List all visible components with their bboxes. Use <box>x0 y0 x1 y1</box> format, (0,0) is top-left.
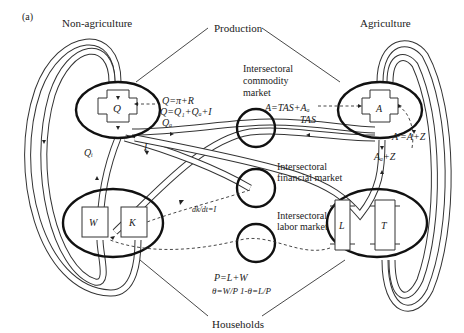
node-W: W <box>82 207 108 237</box>
node-K: K <box>121 207 147 237</box>
non-agriculture-label: Non-agriculture <box>62 17 132 29</box>
svg-text:Intersectoral: Intersectoral <box>277 161 327 172</box>
non-agriculture-household-oval <box>63 189 163 257</box>
node-T: T <box>370 200 400 250</box>
production-label: Production <box>214 22 263 34</box>
financial-market-circle <box>237 169 275 207</box>
dashed-flows <box>110 104 413 250</box>
flow-label-tas: TAS <box>300 114 316 125</box>
flow-label-i: I <box>143 141 148 152</box>
svg-text:Intersectoral: Intersectoral <box>243 63 293 74</box>
svg-text:Q: Q <box>113 102 121 114</box>
commodity-market-label: Intersectoral commodity market <box>243 63 293 98</box>
labor-market-label: Intersectoral labor market <box>277 210 328 232</box>
svg-text:labor market: labor market <box>277 221 328 232</box>
svg-text:K: K <box>128 217 137 228</box>
equation-q-def: Q=π+R <box>162 95 194 106</box>
flow-label-q-i: Qᵢ <box>84 147 93 158</box>
svg-text:L: L <box>338 220 345 231</box>
svg-text:Intersectoral: Intersectoral <box>277 210 327 221</box>
equation-dk-dt: dk/dt=I <box>192 205 216 214</box>
labor-market-circle <box>237 224 275 262</box>
svg-text:commodity: commodity <box>243 75 289 86</box>
equation-p-def: P=L+W <box>213 272 249 283</box>
agriculture-label: Agriculture <box>360 17 411 29</box>
equation-a-a-z: Aₐ+Z <box>373 151 396 162</box>
two-sector-economy-diagram: Q A W K L T <box>0 0 464 333</box>
equation-theta: θ=W/P 1-θ=L/P <box>212 286 272 296</box>
svg-text:market: market <box>243 87 271 98</box>
svg-text:financial market: financial market <box>277 172 342 183</box>
node-A: A <box>362 90 398 122</box>
node-Q: Q <box>98 90 137 122</box>
financial-market-label: Intersectoral financial market <box>277 161 342 183</box>
equation-a-def: A=TAS+Aₐ <box>264 102 310 113</box>
households-label: Households <box>212 318 264 330</box>
equation-q-sum: Q=Q₁+Qₐ+I <box>160 106 212 117</box>
flow-label-q-a: Qₐ <box>162 117 172 128</box>
equation-a-f: Aⁱ=A+Z <box>391 131 426 142</box>
svg-text:A: A <box>375 103 383 114</box>
panel-label: (a) <box>22 11 33 23</box>
